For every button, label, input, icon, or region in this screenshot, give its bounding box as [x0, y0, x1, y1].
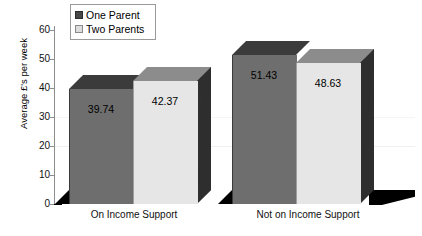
category-label-not-on-income-support: Not on Income Support	[228, 209, 388, 220]
legend-item-two-parents[interactable]: Two Parents	[75, 22, 151, 36]
bar-two-parents-not-on-income-support[interactable]: 48.63	[296, 63, 360, 204]
y-tick-40: 40	[24, 83, 50, 93]
bar-top-face	[232, 41, 310, 55]
bar-value-label: 51.43	[232, 69, 296, 81]
bar-value-label: 39.74	[69, 103, 133, 115]
legend-label-one-parent: One Parent	[86, 10, 140, 21]
legend-item-one-parent[interactable]: One Parent	[75, 8, 151, 22]
y-tick-60: 60	[24, 25, 50, 35]
bar-two-parents-on-income-support[interactable]: 42.37	[133, 81, 197, 204]
y-axis-line	[54, 26, 55, 205]
floor-wedge-mid	[218, 190, 232, 204]
bar-chart: Average £'s per week 60 50 40 30 20 10 0…	[0, 0, 422, 236]
y-tick-30: 30	[24, 112, 50, 122]
x-axis-line	[54, 204, 62, 205]
y-tick-0: 0	[24, 199, 50, 209]
category-label-on-income-support: On Income Support	[64, 209, 204, 220]
legend: One Parent Two Parents	[70, 4, 156, 40]
bar-value-label: 48.63	[296, 77, 360, 89]
dark-swatch-icon	[75, 11, 83, 19]
y-tick-50: 50	[24, 54, 50, 64]
y-tick-10: 10	[24, 170, 50, 180]
light-swatch-icon	[75, 25, 83, 33]
floor-wedge-right	[369, 190, 415, 205]
legend-label-two-parents: Two Parents	[86, 24, 144, 35]
bar-one-parent-not-on-income-support[interactable]: 51.43	[232, 55, 296, 204]
bar-one-parent-on-income-support[interactable]: 39.74	[69, 89, 133, 204]
bar-value-label: 42.37	[133, 95, 197, 107]
floor-wedge-left	[55, 190, 69, 204]
y-tick-20: 20	[24, 141, 50, 151]
